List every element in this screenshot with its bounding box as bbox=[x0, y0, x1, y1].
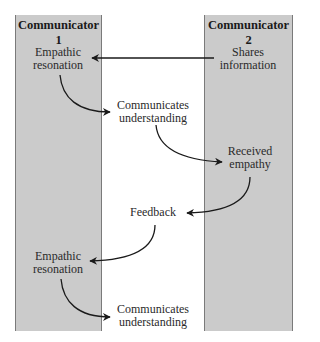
node-label-line2: empathy bbox=[228, 158, 273, 171]
node-label-line1: Empathic bbox=[33, 46, 83, 59]
node-feedback: Feedback bbox=[130, 206, 176, 219]
node-label-line2: understanding bbox=[117, 112, 189, 125]
node-label-line1: Feedback bbox=[130, 206, 176, 219]
node-empathic-resonation: Empathic resonation bbox=[33, 46, 83, 71]
node-label-line2: information bbox=[220, 59, 277, 72]
node-communicates-understanding-2: Communicates understanding bbox=[117, 303, 189, 328]
node-label-line2: resonation bbox=[33, 59, 83, 72]
node-received-empathy: Received empathy bbox=[228, 145, 273, 170]
node-label-line1: Communicates bbox=[117, 303, 189, 316]
arrow-feedback-to-empathic bbox=[90, 225, 155, 261]
node-label-line1: Received bbox=[228, 145, 273, 158]
arrow-communicates-to-received bbox=[156, 125, 222, 162]
arrow-received-to-feedback bbox=[187, 177, 250, 213]
node-label-line2: understanding bbox=[117, 316, 189, 329]
arrow-empathic-to-communicates-2 bbox=[61, 279, 110, 317]
node-shares-information: Shares information bbox=[220, 46, 277, 71]
node-empathic-resonation-2: Empathic resonation bbox=[33, 250, 83, 275]
node-label-line1: Empathic bbox=[33, 250, 83, 263]
node-label-line2: resonation bbox=[33, 263, 83, 276]
node-communicates-understanding: Communicates understanding bbox=[117, 99, 189, 124]
node-label-line1: Communicates bbox=[117, 99, 189, 112]
node-label-line1: Shares bbox=[220, 46, 277, 59]
arrow-empathic-to-communicates bbox=[60, 75, 110, 112]
